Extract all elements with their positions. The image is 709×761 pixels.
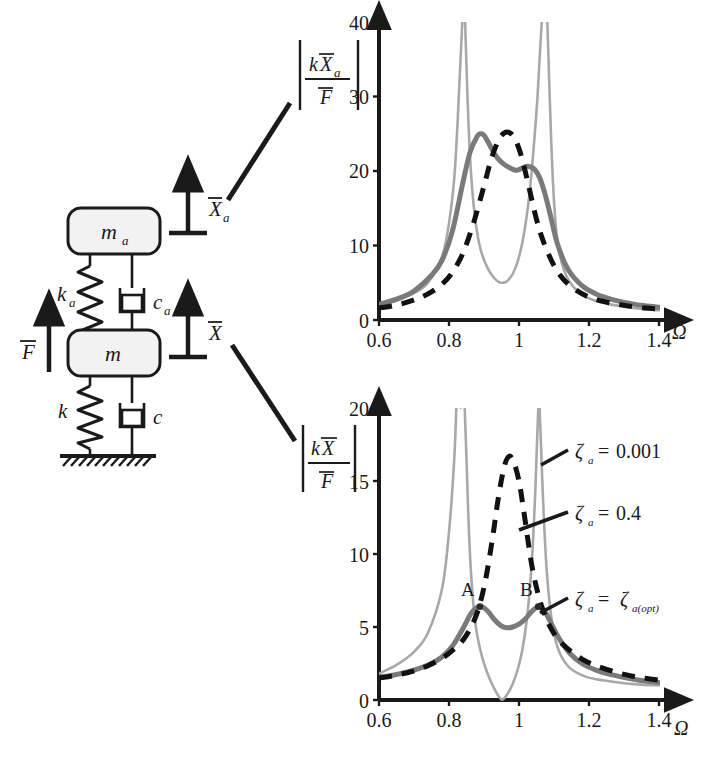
legend-zeta-2: ζ <box>575 588 585 611</box>
chart-bottom-ylabel-den: F <box>320 470 334 492</box>
chart-top-xtick-0: 0.6 <box>367 329 392 351</box>
legend-zeta-sub-1: a <box>588 516 594 528</box>
legend-value-sub-2: a(opt) <box>632 602 659 615</box>
chart-top-ylabel-x: X <box>319 53 333 75</box>
legend-zeta-1: ζ <box>575 502 585 525</box>
annotation-dot-b <box>535 603 542 610</box>
ground-support <box>60 456 156 466</box>
chart-bottom-series-light <box>379 378 659 700</box>
legend-entry-0: ζ a = 0.001 <box>575 440 661 466</box>
chart-top-xtick-2: 1 <box>514 329 524 351</box>
displacement-absorber-sublabel: a <box>223 210 230 225</box>
annotation-dot-a <box>476 603 483 610</box>
chart-top-xtick-1: 0.8 <box>437 329 462 351</box>
legend-eq-0: = <box>598 440 609 462</box>
chart-bottom-y-ticks: 0 5 10 15 20 <box>349 398 379 712</box>
chart-bottom-xlabel: Ω <box>674 717 688 739</box>
primary-damper <box>120 376 144 456</box>
legend-leader-2 <box>540 598 568 613</box>
chart-bottom: k X F 0 5 10 15 20 <box>303 378 688 739</box>
schematic-diagram: m a k a c a m k <box>20 188 230 466</box>
chart-bottom-xtick-0: 0.6 <box>367 709 392 731</box>
chart-bottom-series-dashed <box>379 456 659 680</box>
chart-top-ylabel-k: k <box>309 53 319 75</box>
displacement-absorber-arrow <box>169 188 207 233</box>
chart-bottom-ylabel-x: X <box>321 437 335 459</box>
legend-value-0: 0.001 <box>616 440 661 462</box>
chart-bottom-curves <box>379 378 659 700</box>
primary-spring-label: k <box>58 399 68 423</box>
connector-line-bottom <box>232 345 295 441</box>
annotation-label-b: B <box>520 579 533 600</box>
legend-eq-1: = <box>598 502 609 524</box>
annotation-label-a: A <box>461 579 475 600</box>
chart-bottom-ylabel-k: k <box>311 437 321 459</box>
legend-entry-2: ζ a = ζ a(opt) <box>575 588 659 615</box>
chart-top-ylabel-den: F <box>319 86 333 108</box>
displacement-primary-arrow <box>169 312 207 357</box>
chart-top-ylabel-sub: a <box>334 65 341 80</box>
chart-top-ytick-4: 40 <box>349 12 369 34</box>
primary-damper-label: c <box>153 405 163 429</box>
chart-top-xlabel: Ω <box>672 321 686 343</box>
absorber-mass-sublabel: a <box>122 233 129 248</box>
chart-bottom-x-ticks: 0.6 0.8 1 1.2 1.4 Ω <box>367 700 689 739</box>
legend-zeta-sub-0: a <box>588 454 594 466</box>
chart-top-ytick-1: 10 <box>349 235 369 257</box>
legend-zeta-sub-2: a <box>588 602 594 614</box>
legend-leader-0 <box>541 450 568 465</box>
legend: ζ a = 0.001 ζ a = 0.4 ζ a = ζ a(opt) <box>519 440 661 615</box>
chart-bottom-ytick-2: 10 <box>349 544 369 566</box>
chart-top-x-ticks: 0.6 0.8 1 1.2 1.4 Ω <box>367 320 687 351</box>
chart-bottom-ytick-3: 15 <box>349 471 369 493</box>
chart-bottom-xtick-1: 0.8 <box>437 709 462 731</box>
chart-bottom-xtick-3: 1.2 <box>577 709 602 731</box>
chart-bottom-xtick-4: 1.4 <box>647 709 672 731</box>
chart-bottom-ylabel: k X F <box>303 425 355 492</box>
chart-top-series-dark <box>379 134 659 308</box>
force-label: F <box>21 340 35 364</box>
chart-top-xtick-3: 1.2 <box>577 329 602 351</box>
absorber-damper-sublabel: a <box>164 303 171 318</box>
legend-value-1: 0.4 <box>616 502 641 524</box>
absorber-damper-label: c <box>153 290 163 314</box>
chart-bottom-ytick-1: 5 <box>359 617 369 639</box>
chart-bottom-xtick-2: 1 <box>514 709 524 731</box>
legend-zeta-0: ζ <box>575 440 585 463</box>
displacement-absorber-label: X <box>208 197 223 221</box>
primary-mass-label: m <box>105 341 121 366</box>
chart-top-y-ticks: 0 10 20 30 40 <box>349 12 379 332</box>
chart-bottom-ytick-4: 20 <box>349 398 369 420</box>
chart-top-ytick-2: 20 <box>349 160 369 182</box>
chart-top: k X a F 0 10 20 30 40 <box>300 0 686 351</box>
figure-svg: m a k a c a m k <box>0 0 709 761</box>
legend-value-zeta-2: ζ <box>620 588 630 611</box>
legend-entry-1: ζ a = 0.4 <box>575 502 641 528</box>
chart-top-curves <box>379 0 659 310</box>
connector-line-top <box>228 103 290 200</box>
legend-eq-2: = <box>598 588 609 610</box>
absorber-spring-sublabel: a <box>69 295 76 310</box>
figure-root: m a k a c a m k <box>0 0 709 761</box>
chart-top-ytick-3: 30 <box>349 86 369 108</box>
chart-top-xtick-4: 1.4 <box>647 329 672 351</box>
absorber-spring-label: k <box>57 282 67 306</box>
displacement-primary-label: X <box>208 321 223 345</box>
primary-spring <box>78 376 102 456</box>
absorber-mass-label: m <box>101 219 117 244</box>
